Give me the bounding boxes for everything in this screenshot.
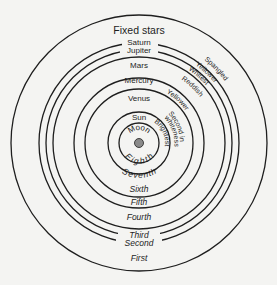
label-jupiter: Jupiter	[127, 46, 151, 55]
label-fourth: Fourth	[127, 212, 152, 222]
label-fifth: Fifth	[131, 197, 148, 207]
label-sixth: Sixth	[130, 184, 149, 194]
label-sun: Sun	[132, 113, 146, 122]
label-second: Second	[125, 238, 154, 248]
label-mercury: Mercury	[125, 76, 154, 85]
label-mars: Mars	[130, 61, 148, 70]
celestial-spheres-diagram: Fixed stars Saturn Jupiter Mars Mercury …	[0, 0, 277, 285]
label-venus: Venus	[128, 94, 150, 103]
label-first: First	[131, 253, 148, 263]
earth-dot	[135, 139, 144, 148]
label-fixed-stars: Fixed stars	[113, 24, 164, 36]
